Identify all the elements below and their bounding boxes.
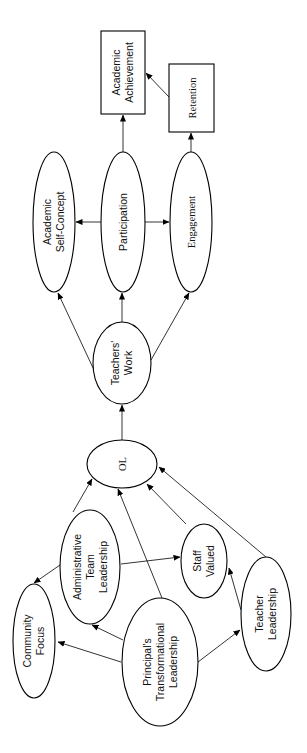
node-label: Teachers'	[109, 341, 121, 386]
node-label: Work	[122, 350, 134, 375]
edge-principal-admin	[92, 625, 123, 640]
node-academic-achievement: Academic Achievement	[101, 31, 145, 114]
node-label: Administrative	[71, 534, 83, 600]
edge-staff-ol	[147, 484, 186, 524]
node-principals-transformational-leadership: Principal's Transformational Leadership	[122, 598, 198, 726]
edge-principal-teacher	[198, 630, 240, 662]
edge-admin-community	[34, 565, 60, 583]
node-label: Achievement	[123, 42, 135, 103]
edge-principal-community	[58, 642, 121, 662]
node-label: Leadership	[266, 588, 278, 640]
node-label: Participation	[117, 193, 129, 251]
node-label: Academic	[41, 199, 53, 245]
node-participation: Participation	[101, 152, 145, 292]
node-retention: Retention	[169, 64, 214, 132]
node-label: Self-Concept	[54, 192, 66, 253]
node-label: Teacher	[253, 595, 265, 633]
node-staff-valued: Staff Valued	[181, 524, 227, 598]
node-label: Team	[84, 554, 96, 580]
node-label: Leadership	[167, 636, 179, 688]
edge-admin-ol	[73, 479, 92, 512]
edge-tw-engagement	[151, 293, 189, 360]
node-label: Principal's	[141, 638, 153, 686]
node-label: Community	[21, 614, 33, 668]
edge-principal-ol	[118, 489, 162, 598]
node-ol: OL	[87, 440, 157, 488]
node-label: Transformational	[154, 623, 166, 701]
node-label: Engagement	[186, 196, 197, 249]
node-community-focus: Community Focus	[13, 584, 55, 698]
node-teachers-work: Teachers' Work	[93, 322, 151, 404]
node-administrative-team-leadership: Administrative Team Leadership	[60, 510, 120, 624]
node-label: Leadership	[97, 541, 109, 593]
node-label: Academic	[110, 49, 122, 95]
node-teacher-leadership: Teacher Leadership	[241, 557, 291, 671]
edge-retention-achievement	[146, 73, 169, 97]
node-engagement: Engagement	[170, 152, 212, 292]
path-diagram: Academic Achievement Retention Academic …	[0, 0, 307, 753]
node-label: OL	[117, 457, 128, 471]
edge-tw-selfconcept	[58, 293, 94, 370]
node-label: Valued	[204, 545, 216, 577]
node-label: Focus	[34, 627, 46, 656]
node-label: Retention	[187, 77, 198, 119]
node-academic-self-concept: Academic Self-Concept	[33, 152, 75, 292]
node-label: Staff	[191, 550, 203, 571]
edge-teacher-staff	[229, 568, 241, 610]
edge-admin-staff	[121, 557, 180, 564]
